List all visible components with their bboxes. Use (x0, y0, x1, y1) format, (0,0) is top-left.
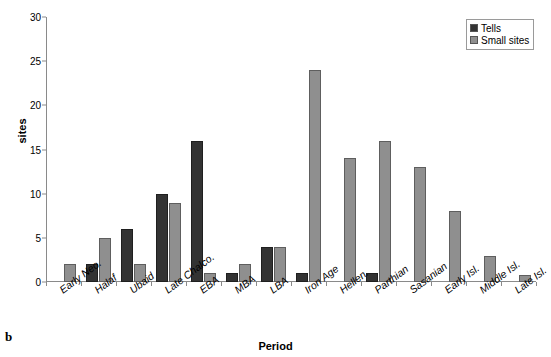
bar-tells (226, 273, 239, 282)
bar-group (326, 17, 361, 282)
y-tick-label: 10 (11, 188, 41, 199)
bar-chart-figure: b sites 051015202530 Early Neo.HalafUbai… (0, 0, 551, 357)
bar-tells (296, 273, 309, 282)
bar-small (169, 203, 182, 283)
bar-group (221, 17, 256, 282)
legend-item: Small sites (470, 34, 529, 46)
x-axis-title: Period (0, 340, 551, 352)
legend-swatch-small-sites-icon (470, 36, 478, 44)
y-tick-label: 0 (11, 277, 41, 288)
y-tick-label: 15 (11, 144, 41, 155)
bar-group (396, 17, 431, 282)
bar-group (431, 17, 466, 282)
legend-label-small-sites: Small sites (481, 35, 529, 46)
bar-group (46, 17, 81, 282)
legend-label-tells: Tells (481, 23, 501, 34)
bars-layer (46, 17, 536, 282)
bar-group (501, 17, 536, 282)
bar-group (291, 17, 326, 282)
bar-small (344, 158, 357, 282)
bar-small (309, 70, 322, 282)
legend-item: Tells (470, 22, 529, 34)
bar-group (81, 17, 116, 282)
bar-small (379, 141, 392, 282)
y-tick-label: 20 (11, 100, 41, 111)
bar-tells (156, 194, 169, 282)
bar-tells (121, 229, 134, 282)
x-axis-category-labels: Early Neo.HalafUbaidLate Chalco.EBAMBALB… (46, 284, 536, 344)
bar-group (151, 17, 186, 282)
legend-swatch-tells-icon (470, 24, 478, 32)
bar-group (256, 17, 291, 282)
bar-group (116, 17, 151, 282)
bar-tells (261, 247, 274, 282)
bar-group (466, 17, 501, 282)
y-tick-label: 30 (11, 12, 41, 23)
y-tick-label: 5 (11, 232, 41, 243)
chart-legend: Tells Small sites (466, 19, 534, 50)
y-tick-label: 25 (11, 56, 41, 67)
plot-area: 051015202530 (46, 17, 536, 282)
bar-group (186, 17, 221, 282)
bar-group (361, 17, 396, 282)
bar-small (414, 167, 427, 282)
